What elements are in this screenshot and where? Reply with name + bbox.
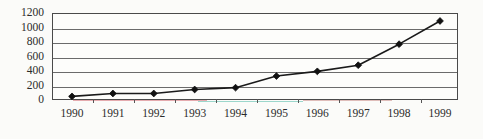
y-tick-label-800: 800 bbox=[27, 36, 44, 48]
data-point-1995 bbox=[273, 73, 280, 80]
data-point-1994 bbox=[232, 84, 239, 91]
data-point-1990 bbox=[69, 93, 76, 100]
x-axis: 1990199119921993199419951996199719981999 bbox=[52, 108, 458, 130]
data-point-1992 bbox=[150, 90, 157, 97]
y-axis: 020040060080010001200 bbox=[0, 13, 48, 100]
data-point-1997 bbox=[355, 62, 362, 69]
tint-band-1 bbox=[198, 101, 303, 102]
series-line bbox=[72, 21, 440, 96]
x-tick-label-1996: 1996 bbox=[306, 108, 329, 120]
data-point-1991 bbox=[109, 90, 116, 97]
y-tick-label-1000: 1000 bbox=[21, 22, 44, 34]
x-tick-label-1994: 1994 bbox=[224, 108, 247, 120]
y-tick-label-1200: 1200 bbox=[21, 7, 44, 19]
x-tick-label-1995: 1995 bbox=[265, 108, 288, 120]
data-series-layer bbox=[52, 13, 458, 100]
data-point-1999 bbox=[437, 18, 444, 25]
line-chart-figure: 020040060080010001200 199019911992199319… bbox=[0, 0, 483, 139]
y-tick-label-600: 600 bbox=[27, 51, 44, 63]
y-tick-label-400: 400 bbox=[27, 65, 44, 77]
x-tick-label-1999: 1999 bbox=[429, 108, 452, 120]
x-tick-label-1992: 1992 bbox=[142, 108, 165, 120]
data-point-1993 bbox=[191, 86, 198, 93]
data-point-1996 bbox=[314, 68, 321, 75]
x-tick-label-1997: 1997 bbox=[347, 108, 370, 120]
data-point-1998 bbox=[396, 41, 403, 48]
x-tick-label-1998: 1998 bbox=[388, 108, 411, 120]
y-tick-label-200: 200 bbox=[27, 80, 44, 92]
x-tick-label-1990: 1990 bbox=[61, 108, 84, 120]
x-tick-label-1991: 1991 bbox=[101, 108, 124, 120]
y-tick-label-0: 0 bbox=[38, 94, 44, 106]
x-tick-label-1993: 1993 bbox=[183, 108, 206, 120]
